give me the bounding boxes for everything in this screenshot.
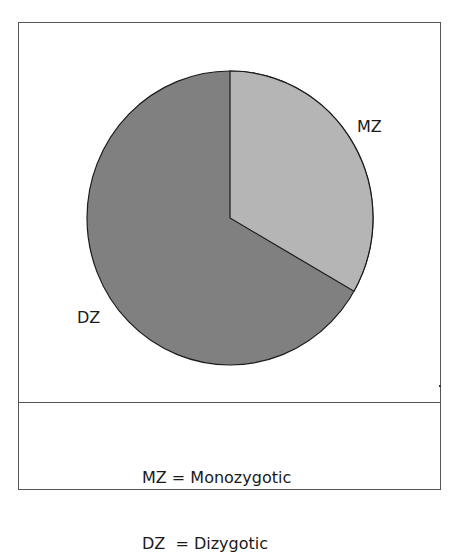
figure-frame: MZ DZ MZ = Monozygotic DZ = Dizygotic xyxy=(18,22,441,490)
legend-panel: MZ = Monozygotic DZ = Dizygotic xyxy=(19,403,440,489)
legend-item-mz: MZ = Monozygotic xyxy=(142,467,291,489)
slice-label-dz: DZ xyxy=(77,308,100,327)
slice-label-mz: MZ xyxy=(357,117,382,136)
legend-list: MZ = Monozygotic DZ = Dizygotic xyxy=(142,423,291,556)
scan-artifact-dot xyxy=(439,385,441,387)
chart-panel: MZ DZ xyxy=(19,23,440,403)
legend-item-dz: DZ = Dizygotic xyxy=(142,533,291,555)
